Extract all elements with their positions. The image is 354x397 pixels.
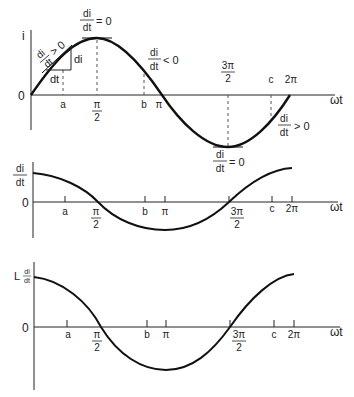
panel-derivative: di dt 0 ωt a π 2 b π 3π 2 c 2π xyxy=(13,162,343,238)
svg-text:= 0: = 0 xyxy=(96,15,112,27)
tick-three-half-pi: 3π 2 xyxy=(221,60,235,84)
tick-c: c xyxy=(269,74,274,85)
svg-text:2: 2 xyxy=(94,342,100,353)
y-axis-label: i xyxy=(22,29,25,43)
svg-text:3π: 3π xyxy=(233,329,246,340)
tick-half-pi: π 2 xyxy=(91,206,101,230)
dt-label: dt xyxy=(50,73,59,85)
svg-text:di: di xyxy=(216,149,224,160)
di-label: di xyxy=(74,53,83,65)
tick-two-pi: 2π xyxy=(286,203,299,214)
tick-b: b xyxy=(144,329,150,340)
origin-label: 0 xyxy=(18,89,25,103)
svg-text:dt: dt xyxy=(150,61,159,72)
panel-current: i 0 ωt di dt di dt > 0 di dt xyxy=(18,8,343,174)
annotation-trough-zero: di dt = 0 xyxy=(213,149,245,174)
svg-text:2: 2 xyxy=(225,73,231,84)
svg-text:L: L xyxy=(14,270,20,282)
tick-half-pi: π 2 xyxy=(92,99,102,123)
svg-text:dt: dt xyxy=(24,277,30,284)
tick-b: b xyxy=(142,206,148,217)
svg-text:< 0: < 0 xyxy=(163,54,179,66)
svg-text:dt: dt xyxy=(216,163,225,174)
tick-two-pi: 2π xyxy=(285,74,298,85)
svg-text:= 0: = 0 xyxy=(229,156,245,168)
svg-text:dt: dt xyxy=(83,22,92,33)
annotation-end-positive: di dt > 0 xyxy=(278,113,310,138)
tick-a: a xyxy=(62,206,68,217)
svg-text:3π: 3π xyxy=(231,206,244,217)
svg-text:2: 2 xyxy=(93,219,99,230)
svg-text:dt: dt xyxy=(16,177,25,188)
tick-pi: π xyxy=(163,329,170,340)
x-axis-label: ωt xyxy=(330,93,343,107)
tick-a: a xyxy=(60,99,66,110)
panel-voltage: L di dt 0 ωt a π 2 b π 3π 2 c 2π xyxy=(14,262,343,390)
tick-half-pi: π 2 xyxy=(92,329,102,353)
annotation-peak-zero: di dt = 0 xyxy=(80,8,112,33)
svg-text:2: 2 xyxy=(94,112,100,123)
tick-two-pi: 2π xyxy=(288,329,301,340)
tick-c: c xyxy=(270,203,275,214)
svg-text:di: di xyxy=(150,47,158,58)
svg-text:di: di xyxy=(16,163,24,174)
current-curve xyxy=(31,38,290,147)
svg-text:dt: dt xyxy=(280,127,289,138)
svg-text:di: di xyxy=(24,268,30,275)
svg-text:3π: 3π xyxy=(222,60,235,71)
origin-label: 0 xyxy=(22,321,29,335)
tick-c: c xyxy=(272,329,277,340)
svg-text:π: π xyxy=(94,99,101,110)
annotation-falling-negative: di dt < 0 xyxy=(148,47,179,72)
svg-text:di: di xyxy=(280,113,288,124)
tick-pi: π xyxy=(156,99,163,110)
svg-text:π: π xyxy=(94,329,101,340)
x-axis-label: ωt xyxy=(330,325,343,339)
x-axis-label: ωt xyxy=(330,200,343,214)
tick-pi: π xyxy=(162,206,169,217)
y-axis-label: di dt xyxy=(13,163,27,188)
svg-text:2: 2 xyxy=(236,342,242,353)
tick-three-half-pi: 3π 2 xyxy=(230,206,244,230)
y-axis-label: L di dt xyxy=(14,268,31,284)
svg-text:2: 2 xyxy=(234,219,240,230)
tick-a: a xyxy=(65,329,71,340)
tick-three-half-pi: 3π 2 xyxy=(232,329,246,353)
voltage-curve xyxy=(34,274,294,370)
tick-b: b xyxy=(141,99,147,110)
svg-text:di: di xyxy=(83,8,91,19)
svg-text:π: π xyxy=(93,206,100,217)
derivative-curve xyxy=(33,168,292,230)
origin-label: 0 xyxy=(22,196,29,210)
svg-text:> 0: > 0 xyxy=(294,120,310,132)
waveform-diagram: i 0 ωt di dt di dt > 0 di dt xyxy=(0,0,354,397)
